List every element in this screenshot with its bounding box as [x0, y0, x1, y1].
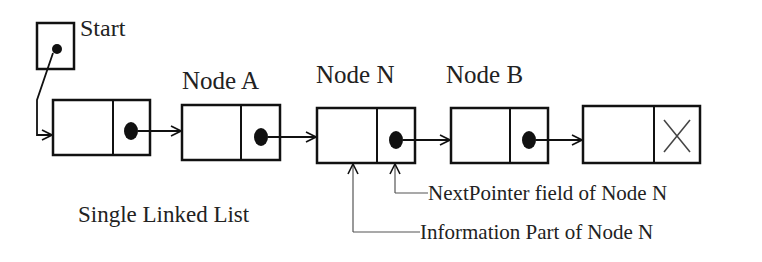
- node-b: Node B: [446, 61, 548, 163]
- linked-list-diagram: Start Node A Node N Node B: [0, 0, 762, 262]
- node-1: [53, 100, 150, 155]
- pointer-dot-icon: [52, 44, 62, 54]
- node-n-label: Node N: [316, 61, 394, 88]
- null-x-icon: [664, 120, 690, 152]
- node-last: [583, 106, 700, 163]
- info-part-annotation: Information Part of Node N: [420, 220, 653, 244]
- node-n: Node N: [316, 61, 415, 163]
- pointer-dot-icon: [124, 122, 138, 140]
- pointer-dot-icon: [522, 131, 536, 149]
- node-a: Node A: [182, 67, 280, 160]
- node-a-label: Node A: [182, 67, 259, 94]
- node-b-label: Node B: [446, 61, 523, 88]
- pointer-dot-icon: [254, 128, 268, 146]
- start-label: Start: [80, 15, 126, 41]
- diagram-title: Single Linked List: [78, 202, 250, 227]
- start-arrow: [37, 53, 53, 135]
- pointer-dot-icon: [389, 131, 403, 149]
- next-pointer-annotation: NextPointer field of Node N: [428, 181, 667, 205]
